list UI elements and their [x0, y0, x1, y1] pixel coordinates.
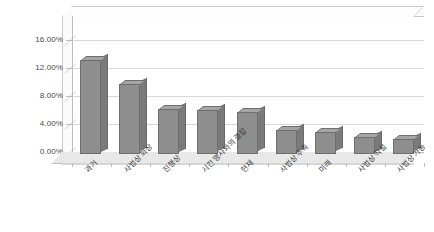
- x-axis-tick: [346, 163, 347, 167]
- x-axis-tick: [72, 163, 73, 167]
- bar-side-face: [101, 53, 108, 151]
- bar-side-face: [140, 78, 147, 151]
- x-axis-tick: [385, 163, 386, 167]
- bar-side-face: [179, 102, 186, 151]
- bar: [197, 110, 218, 154]
- bar: [315, 132, 336, 154]
- bar-front-face: [119, 84, 140, 154]
- x-axis-tick: [268, 163, 269, 167]
- bar-series: [0, 0, 434, 232]
- bar: [276, 130, 297, 155]
- bar-front-face: [197, 110, 218, 154]
- bar-front-face: [315, 132, 336, 154]
- bar-front-face: [158, 109, 179, 155]
- bar-front-face: [276, 130, 297, 155]
- x-axis-tick: [111, 163, 112, 167]
- bar-chart: 0.00%4.00%8.00%12.00%16.00% 과거사법상 회상진행상시…: [0, 0, 434, 232]
- x-axis-tick: [424, 163, 425, 167]
- bar-front-face: [80, 60, 101, 155]
- bar: [119, 84, 140, 154]
- x-axis-tick: [189, 163, 190, 167]
- x-axis-tick: [228, 163, 229, 167]
- bar: [80, 60, 101, 155]
- x-axis-tick: [307, 163, 308, 167]
- bar: [158, 109, 179, 155]
- x-axis-tick: [150, 163, 151, 167]
